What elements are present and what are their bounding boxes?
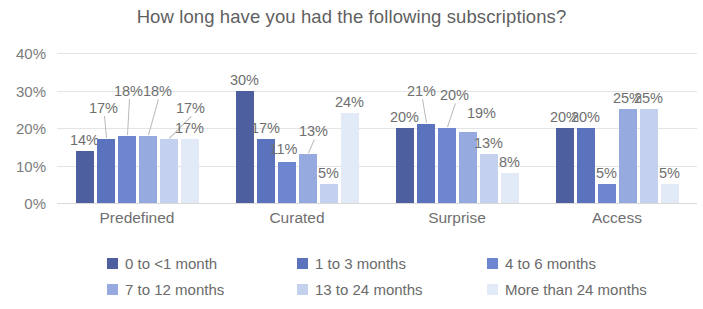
bar-value-label: 14% [70,132,99,148]
legend-item[interactable]: More than 24 months [487,281,647,298]
label-leader-line [148,99,159,135]
bar-value-label: 24% [335,94,364,110]
legend-swatch-icon [297,284,308,295]
bar-value-label: 17% [89,100,118,116]
chart-title: How long have you had the following subs… [0,6,703,28]
legend-label: More than 24 months [505,281,647,298]
bar[interactable] [181,139,199,203]
bar[interactable] [640,109,658,203]
y-axis-tick-label: 40% [16,45,46,62]
legend-item[interactable]: 7 to 12 months [107,281,224,298]
bar[interactable] [501,173,519,203]
bar[interactable] [619,109,637,203]
bar[interactable] [278,162,296,203]
x-axis-category-label: Curated [269,209,324,227]
legend-label: 1 to 3 months [315,255,406,272]
x-axis-line [57,203,697,204]
bar[interactable] [320,184,338,203]
bar-value-label: 20% [390,109,419,125]
chart-legend: 0 to <1 month1 to 3 months4 to 6 months7… [57,255,687,305]
bar-value-label: 20% [571,109,600,125]
bar-group: 14%17%18%18%17%17% [76,53,199,203]
bar-value-label: 13% [299,123,328,139]
y-axis-tick-label: 20% [16,120,46,137]
bar[interactable] [598,184,616,203]
legend-label: 4 to 6 months [505,255,596,272]
legend-label: 13 to 24 months [315,281,423,298]
bar[interactable] [160,139,178,203]
bar[interactable] [76,151,94,204]
label-leader-line [422,99,427,123]
bar[interactable] [438,128,456,203]
legend-swatch-icon [487,258,498,269]
legend-label: 7 to 12 months [125,281,224,298]
legend-swatch-icon [107,258,118,269]
y-axis-tick-label: 10% [16,157,46,174]
label-leader-line [447,103,456,127]
bar-value-label: 18% [143,83,172,99]
bar-value-label: 30% [230,72,259,88]
bar[interactable] [118,136,136,204]
bar[interactable] [577,128,595,203]
y-axis: 0%10%20%30%40% [0,53,50,203]
x-axis-category-label: Surprise [428,209,486,227]
bar[interactable] [396,128,414,203]
legend-swatch-icon [487,284,498,295]
bar[interactable] [417,124,435,203]
legend-label: 0 to <1 month [125,255,217,272]
y-axis-tick-label: 0% [24,195,46,212]
bar[interactable] [556,128,574,203]
bar-value-label: 13% [474,135,503,151]
bar-value-label: 5% [659,165,680,181]
label-leader-line [104,116,107,138]
legend-swatch-icon [297,258,308,269]
legend-item[interactable]: 13 to 24 months [297,281,423,298]
bar-value-label: 19% [467,105,496,121]
label-leader-line [308,139,315,153]
bar[interactable] [661,184,679,203]
x-axis-category-label: Predefined [100,209,175,227]
legend-swatch-icon [107,284,118,295]
bar[interactable] [97,139,115,203]
bar-group: 20%21%20%19%13%8% [396,53,519,203]
bar-value-label: 20% [440,87,469,103]
bar-chart: How long have you had the following subs… [0,0,703,309]
bar-group: 20%20%5%25%25%5% [556,53,679,203]
bar-value-label: 18% [114,83,143,99]
bar-value-label: 17% [251,120,280,136]
bar-value-label: 5% [318,165,339,181]
bar[interactable] [299,154,317,203]
legend-item[interactable]: 1 to 3 months [297,255,406,272]
x-axis-category-label: Access [592,209,642,227]
label-leader-line [127,99,130,135]
y-axis-tick-label: 30% [16,82,46,99]
bar-value-label: 5% [596,165,617,181]
legend-item[interactable]: 4 to 6 months [487,255,596,272]
bar[interactable] [139,136,157,204]
bar[interactable] [236,91,254,204]
bar-value-label: 17% [175,120,204,136]
legend-item[interactable]: 0 to <1 month [107,255,217,272]
bar-value-label: 11% [270,141,298,157]
bar-value-label: 8% [499,154,520,170]
bar-value-label: 21% [407,83,436,99]
bar[interactable] [341,113,359,203]
plot-area: 14%17%18%18%17%17%30%17%11%13%5%24%20%21… [57,53,697,203]
bar-value-label: 25% [634,90,663,106]
bar-value-label: 17% [176,100,205,116]
bar[interactable] [480,154,498,203]
bar-group: 30%17%11%13%5%24% [236,53,359,203]
